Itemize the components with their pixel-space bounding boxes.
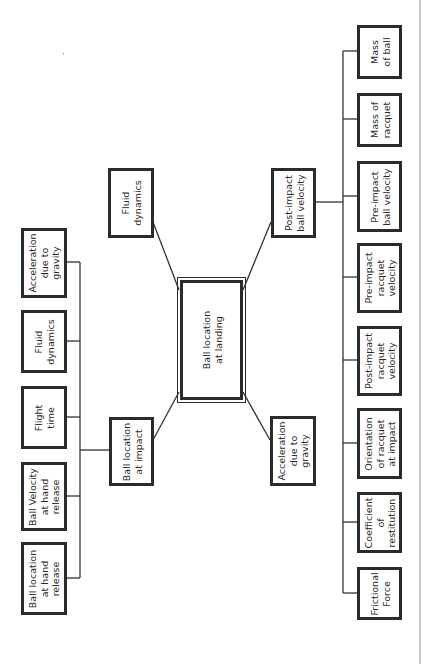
- node-left-flight-time: Flight time: [21, 386, 67, 449]
- node-right-mass-of-ball: Mass of ball: [357, 25, 402, 79]
- node-ball-location-at-landing: Ball location at landing: [180, 280, 243, 400]
- node-ball-location-at-impact: Ball location at impact: [109, 417, 154, 486]
- node-fluid-dynamics-top: Fluid dynamics: [108, 168, 154, 238]
- diagram-canvas: Ball location at landing Fluid dynamics …: [0, 0, 429, 664]
- node-left-ball-location-hand-release: Ball location at hand release: [21, 542, 67, 615]
- node-acceleration-gravity-mid: Acceleration due to gravity: [270, 416, 316, 486]
- node-left-ball-velocity-hand-release: Ball Velocity at hand release: [21, 462, 67, 531]
- node-right-pre-impact-racquet-velocity: Pre-impact racquet velocity: [357, 243, 402, 313]
- node-post-impact-ball-velocity: Post-impact ball velocity: [271, 168, 316, 238]
- node-right-orientation-racquet-impact: Orientation of racquet at impact: [357, 408, 402, 479]
- node-right-pre-impact-ball-velocity: Pre-impact ball velocity: [357, 161, 402, 232]
- node-right-frictional-force: Frictional Force: [357, 567, 402, 620]
- node-left-acceleration-gravity: Acceleration due to gravity: [21, 228, 67, 298]
- node-right-mass-of-racquet: Mass of racquet: [357, 93, 402, 147]
- node-right-coefficient-restitution: Coefficient of restitution: [357, 492, 402, 553]
- stray-mark: [63, 53, 64, 54]
- node-right-post-impact-racquet-velocity: Post-impact racquet velocity: [357, 326, 402, 396]
- node-left-fluid-dynamics: Fluid dynamics: [21, 310, 67, 373]
